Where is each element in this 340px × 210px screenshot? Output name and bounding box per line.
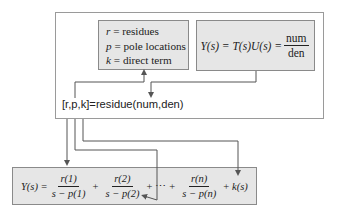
arrow-to-call	[151, 71, 256, 95]
connector-arrows	[0, 0, 340, 210]
arrow-to-definitions	[75, 72, 144, 98]
arrow-to-term-2	[75, 119, 157, 200]
arrow-to-direct-term	[83, 119, 238, 173]
